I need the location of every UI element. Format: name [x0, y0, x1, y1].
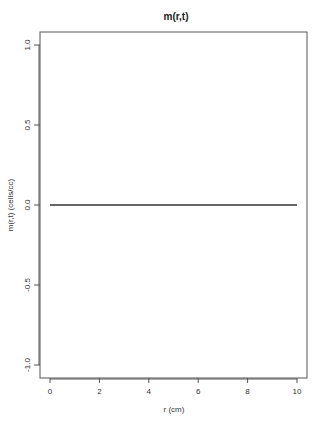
x-tick-label: 2	[97, 387, 102, 396]
y-axis-label: m(r,t) (cells/cc)	[6, 178, 15, 231]
x-tick-label: 0	[48, 387, 53, 396]
y-tick-label: 1.0	[23, 39, 32, 51]
chart: m(r,t) 0246810 -1.0-0.50.00.51.0 r (cm) …	[0, 0, 321, 424]
x-tick-label: 8	[245, 387, 250, 396]
y-tick-label: -0.5	[23, 278, 32, 292]
x-axis: 0246810	[48, 378, 302, 396]
x-axis-label: r (cm)	[164, 405, 185, 414]
x-tick-label: 10	[293, 387, 302, 396]
x-tick-label: 4	[147, 387, 152, 396]
y-tick-label: -1.0	[23, 358, 32, 372]
y-axis: -1.0-0.50.00.51.0	[23, 39, 40, 372]
y-tick-label: 0.0	[23, 199, 32, 211]
x-tick-label: 6	[196, 387, 201, 396]
y-tick-label: 0.5	[23, 119, 32, 131]
chart-title: m(r,t)	[164, 11, 189, 22]
